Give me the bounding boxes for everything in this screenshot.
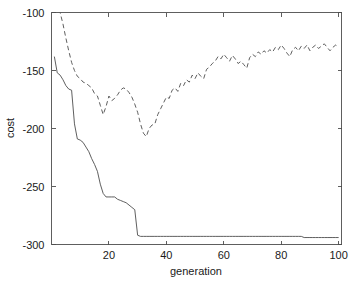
y-tick-label: -200 [22,123,44,135]
y-tick-label: -300 [22,239,44,251]
x-axis-title: generation [170,265,222,277]
x-tick-label: 100 [329,249,347,261]
x-tick-label: 40 [160,249,172,261]
x-tick-label: 60 [218,249,230,261]
y-tick-label: -150 [22,65,44,77]
cost-vs-generation-line-chart: 20406080100 -300-250-200-150-100 generat… [0,0,356,288]
chart-figure: 20406080100 -300-250-200-150-100 generat… [0,0,356,288]
y-axis-tick-labels: -300-250-200-150-100 [22,7,44,251]
plot-area-background [52,13,342,245]
x-axis-tick-labels: 20406080100 [103,249,348,261]
y-tick-label: -250 [22,181,44,193]
x-tick-label: 20 [103,249,115,261]
y-tick-label: -100 [22,7,44,19]
x-tick-label: 80 [275,249,287,261]
y-axis-title: cost [4,118,16,138]
